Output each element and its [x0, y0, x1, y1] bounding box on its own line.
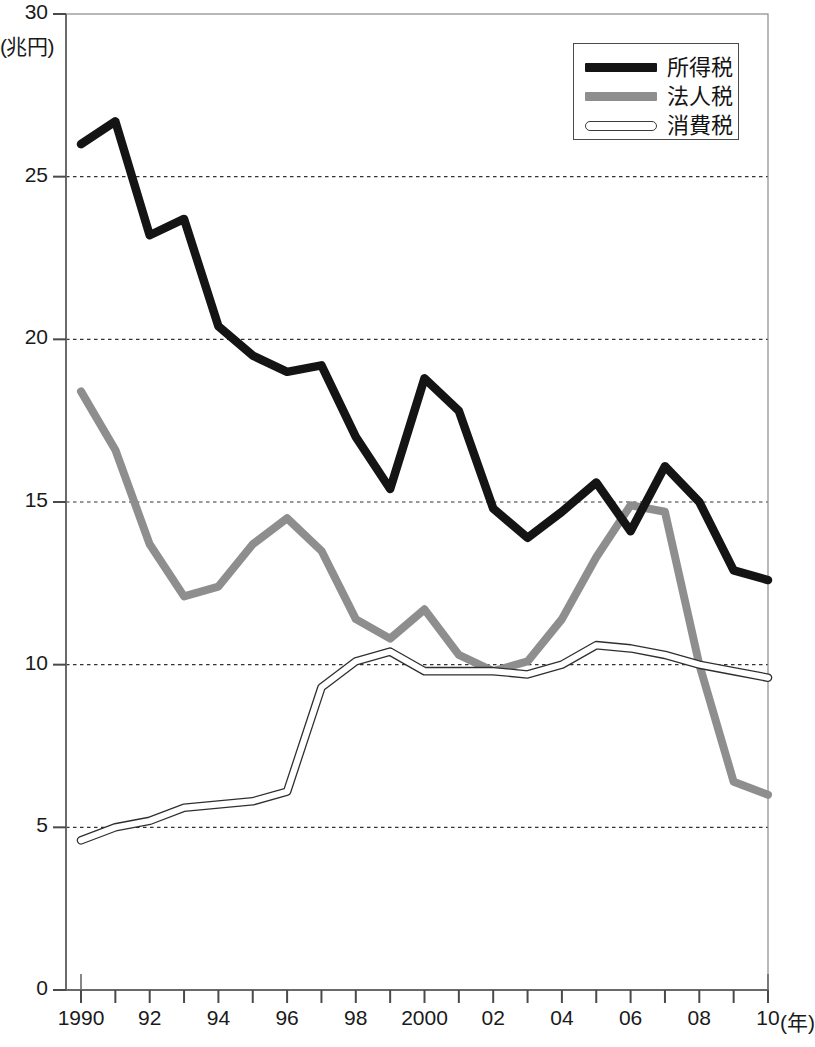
- data-series-layer: [81, 121, 768, 840]
- legend-label-corporate-tax: 法人税: [667, 86, 733, 108]
- y-axis-unit-label: (兆円): [0, 30, 54, 60]
- legend-item-income-tax: 所得税: [574, 53, 738, 82]
- y-tick-label-30: 30: [25, 0, 48, 24]
- y-tick-label-5: 5: [36, 813, 48, 837]
- y-tick-label-10: 10: [25, 651, 48, 675]
- x-axis-ticks: [81, 974, 768, 1003]
- legend-item-consumption-tax: 消費税: [574, 111, 738, 140]
- y-tick-label-15: 15: [25, 488, 48, 512]
- y-axis-ticks: [53, 14, 66, 990]
- y-tick-label-0: 0: [36, 976, 48, 1000]
- gridlines: [66, 177, 768, 828]
- legend-swatch-income-tax: [585, 63, 657, 72]
- y-tick-label-25: 25: [25, 163, 48, 187]
- legend-swatch-consumption-tax: [585, 121, 657, 131]
- legend-item-corporate-tax: 法人税: [574, 82, 738, 111]
- legend-swatch-corporate-tax: [585, 92, 657, 101]
- y-tick-label-20: 20: [25, 325, 48, 349]
- x-axis-unit-label: (年): [780, 1006, 815, 1036]
- legend-label-income-tax: 所得税: [667, 57, 733, 79]
- chart-legend: 所得税 法人税 消費税: [573, 43, 739, 140]
- legend-label-consumption-tax: 消費税: [667, 115, 733, 137]
